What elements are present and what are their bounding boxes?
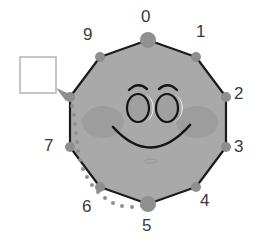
vertex-label-0: 0 xyxy=(141,8,150,25)
path-dot xyxy=(111,201,115,205)
path-dot xyxy=(81,167,85,171)
vertex-label-6: 6 xyxy=(82,198,91,215)
vertex-dot-7[interactable] xyxy=(65,142,75,152)
decagon-figure-svg xyxy=(0,0,265,247)
vertex-label-1: 1 xyxy=(196,23,205,40)
vertex-label-5: 5 xyxy=(142,217,151,234)
vertex-label-4: 4 xyxy=(200,192,209,209)
vertex-label-9: 9 xyxy=(83,26,92,43)
path-dot xyxy=(73,122,77,126)
path-dot xyxy=(85,175,89,179)
vertex-dot-3[interactable] xyxy=(221,142,231,152)
figure-canvas: 012345679 xyxy=(0,0,265,247)
path-dot xyxy=(90,183,94,187)
path-dot xyxy=(72,113,76,117)
vertex-label-3: 3 xyxy=(234,138,243,155)
path-dot xyxy=(76,149,80,153)
vertex-label-2: 2 xyxy=(234,85,243,102)
path-dot xyxy=(78,158,82,162)
vertex-dot-6[interactable] xyxy=(95,182,105,192)
path-dot xyxy=(130,205,134,209)
vertex-dot-5[interactable] xyxy=(140,196,156,212)
vertex-dot-2[interactable] xyxy=(221,92,231,102)
path-dot xyxy=(96,190,100,194)
path-dot xyxy=(75,140,79,144)
path-dot xyxy=(70,104,74,108)
vertex-label-7: 7 xyxy=(44,137,53,154)
path-dot xyxy=(140,204,144,208)
vertex-dot-1[interactable] xyxy=(191,52,201,62)
path-dot xyxy=(120,204,124,208)
empty-target-square[interactable] xyxy=(20,57,56,93)
vertex-dot-9[interactable] xyxy=(95,52,105,62)
path-dot xyxy=(74,131,78,135)
path-dot xyxy=(103,196,107,200)
vertex-dot-0[interactable] xyxy=(140,32,156,48)
